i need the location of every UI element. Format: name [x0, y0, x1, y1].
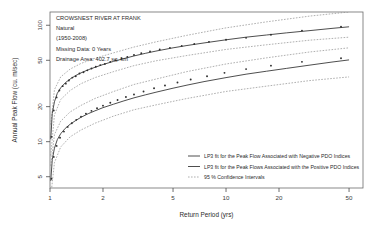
data-point [193, 43, 195, 45]
record-period: (1950-2008) [56, 35, 87, 41]
x-axis-tick-label: 20 [276, 194, 283, 201]
y-axis-tick-label: 10 [36, 138, 43, 145]
data-point [153, 87, 155, 89]
data-point [71, 122, 73, 124]
data-point [75, 119, 77, 121]
data-point [270, 65, 272, 67]
data-point [80, 116, 82, 118]
data-point [340, 26, 342, 28]
data-point [133, 54, 135, 56]
x-axis-title: Return Period (yrs) [180, 211, 234, 219]
data-point [301, 30, 303, 32]
data-point [109, 102, 111, 104]
data-point [96, 107, 98, 109]
data-point [206, 75, 208, 77]
data-point [208, 41, 210, 43]
confidence-interval-line [51, 12, 349, 125]
y-axis-tick-label: 5 [36, 174, 43, 178]
data-point [224, 72, 226, 74]
data-point [63, 131, 65, 133]
data-point [177, 82, 179, 84]
y-axis-title: Annual Peak Flow (cu. m/sec) [11, 58, 19, 143]
data-point [91, 68, 93, 70]
data-point [340, 57, 342, 59]
x-axis-tick-label: 10 [223, 194, 230, 201]
legend-label: LP3 fit for the Peak Flow Associated wit… [204, 153, 351, 159]
data-point [51, 178, 53, 180]
legend-label: 95 % Confidence Intervals [204, 174, 265, 180]
data-point [62, 85, 64, 87]
data-point [65, 83, 67, 85]
data-point [56, 145, 58, 147]
y-axis-tick-label: 50 [36, 56, 43, 63]
data-point [270, 34, 272, 36]
x-axis-tick-label: 50 [346, 194, 353, 201]
data-point [99, 64, 101, 66]
data-point [68, 80, 70, 82]
data-point [181, 45, 183, 47]
data-point [59, 137, 61, 139]
data-point [102, 105, 104, 107]
plot-frame [50, 12, 363, 188]
data-point [140, 52, 142, 54]
x-axis-tick-label: 5 [171, 194, 175, 201]
data-point [245, 37, 247, 39]
data-point [164, 85, 166, 87]
missing-data: Missing Data: 0 Years [56, 46, 111, 52]
data-point [104, 63, 106, 65]
data-point [95, 66, 97, 68]
data-point [91, 110, 93, 112]
data-point [53, 110, 55, 112]
data-point [85, 113, 87, 115]
data-point [143, 91, 145, 93]
data-point [225, 39, 227, 41]
station-name: CROWSNEST RIVER AT FRANK [56, 15, 141, 21]
legend-label: LP3 fit for the Peak Flows Associated wi… [204, 164, 360, 170]
data-point [67, 126, 69, 128]
data-point [133, 94, 135, 96]
y-axis-tick-label: 100 [36, 20, 43, 31]
x-axis-tick-label: 1 [48, 194, 52, 201]
data-point [79, 73, 81, 75]
data-point [56, 96, 58, 98]
data-point [159, 48, 161, 50]
data-point [83, 71, 85, 73]
data-point [190, 79, 192, 81]
data-point [86, 69, 88, 71]
data-point [53, 156, 55, 158]
data-point [149, 51, 151, 53]
data-point [169, 47, 171, 49]
data-point [301, 61, 303, 63]
data-point [125, 96, 127, 98]
regulation-status: Natural [56, 25, 74, 31]
data-point [71, 77, 73, 79]
data-point [117, 99, 119, 101]
data-point [51, 136, 53, 138]
data-point [75, 75, 77, 77]
data-point [245, 68, 247, 70]
data-point [58, 90, 60, 92]
confidence-interval-line [51, 77, 349, 196]
flood-frequency-chart: 1251020501005020105Return Period (yrs)An… [0, 0, 378, 234]
drainage-area: Drainage Area: 402.7 sq. km [56, 56, 128, 62]
lp3-fit-line [51, 27, 349, 139]
x-axis-tick-label: 2 [101, 194, 105, 201]
chart-svg: 1251020501005020105Return Period (yrs)An… [0, 0, 378, 234]
y-axis-tick-label: 20 [36, 103, 43, 110]
